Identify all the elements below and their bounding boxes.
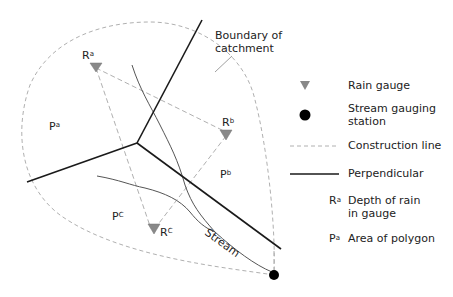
boundary-label-line1: Boundary of (215, 29, 282, 42)
legend-construction-line: Construction line (348, 139, 441, 152)
legend-station-line1: Stream gauging (348, 102, 436, 115)
catchment-boundary (22, 22, 275, 275)
rain-gauge-b-icon (220, 130, 232, 140)
legend-triangle-icon (300, 81, 310, 90)
legend-filled-circle-icon (300, 110, 311, 121)
polygon-label-c: PC (112, 210, 124, 223)
stream-gauging-station-icon (269, 270, 279, 280)
gauge-label-c: RC (160, 226, 173, 239)
construction-lines (96, 68, 274, 272)
legend-station-line2: station (348, 115, 436, 128)
legend-depth-line1: Depth of rain (348, 194, 420, 207)
boundary-pointer (215, 56, 232, 72)
boundary-label-line2: catchment (215, 42, 282, 55)
stream (97, 65, 272, 272)
legend-rain-gauge: Rain gauge (348, 79, 410, 92)
legend-stream-gauging-station: Stream gauging station (348, 102, 436, 128)
polygon-label-b: Pb (220, 168, 231, 181)
legend-symbol-r: Ra (329, 194, 341, 207)
legend-depth-of-rain: Depth of rain in gauge (348, 194, 420, 220)
legend-area-of-polygon: Area of polygon (348, 232, 435, 245)
polygon-label-a: Pa (49, 120, 60, 133)
rain-gauge-a-icon (90, 63, 102, 72)
legend-depth-line2: in gauge (348, 207, 420, 220)
rain-gauge-c-icon (148, 224, 160, 234)
gauge-label-b: Rb (222, 116, 234, 129)
boundary-label: Boundary of catchment (215, 29, 282, 55)
legend-symbol-p: Pa (329, 232, 340, 245)
legend-perpendicular: Perpendicular (348, 167, 424, 180)
gauge-label-a: Ra (82, 49, 94, 62)
